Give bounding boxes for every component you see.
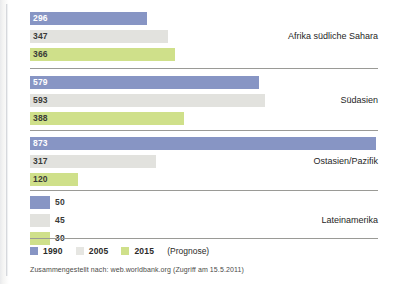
bar-2005 bbox=[30, 214, 50, 227]
bar-row: 366 bbox=[30, 48, 378, 61]
bar-row: 296 bbox=[30, 12, 378, 25]
bar-value-label: 347 bbox=[33, 30, 48, 43]
bar-value-label: 873 bbox=[33, 137, 48, 150]
legend-swatch-2005 bbox=[76, 247, 84, 255]
group-separator bbox=[30, 68, 378, 69]
bar-value-label: 388 bbox=[33, 112, 48, 125]
bar-2005 bbox=[30, 94, 265, 107]
bar-value-label: 317 bbox=[33, 155, 48, 168]
bar-row: 50 bbox=[30, 196, 378, 209]
region-label: Südasien bbox=[340, 95, 378, 105]
legend-label-2015: 2015 bbox=[134, 246, 154, 256]
bar-value-label: 593 bbox=[33, 94, 48, 107]
bar-row: 120 bbox=[30, 173, 378, 186]
bar-row: 388 bbox=[30, 112, 378, 125]
bar-chart: 296347366Afrika südliche Sahara579593388… bbox=[0, 0, 398, 284]
bar-value-label: 120 bbox=[33, 173, 48, 186]
group-separator bbox=[30, 238, 378, 239]
bar-value-label: 296 bbox=[33, 12, 48, 25]
group-separator bbox=[30, 190, 378, 191]
bar-row: 873 bbox=[30, 137, 378, 150]
legend-label-1990: 1990 bbox=[43, 246, 63, 256]
bar-2005 bbox=[30, 155, 156, 168]
bar-2015 bbox=[30, 112, 184, 125]
legend-swatch-1990 bbox=[30, 247, 38, 255]
bar-1990 bbox=[30, 76, 259, 89]
bar-row: 593 bbox=[30, 94, 378, 107]
legend-item-2005: 2005 bbox=[76, 246, 109, 256]
bar-1990 bbox=[30, 137, 376, 150]
region-label: Afrika südliche Sahara bbox=[288, 31, 378, 41]
bar-group: 579593388 bbox=[30, 76, 378, 130]
bar-2005 bbox=[30, 30, 168, 43]
region-label: Lateinamerika bbox=[321, 215, 378, 225]
group-separator bbox=[30, 130, 378, 131]
legend-label-2005: 2005 bbox=[89, 246, 109, 256]
bar-value-label: 50 bbox=[55, 196, 65, 209]
legend-note-text: (Prognose) bbox=[167, 246, 209, 256]
bar-value-label: 45 bbox=[55, 214, 65, 227]
legend-item-2015: 2015 bbox=[121, 246, 154, 256]
legend-item-1990: 1990 bbox=[30, 246, 63, 256]
chart-legend: 1990 2005 2015 (Prognose) bbox=[30, 246, 222, 256]
region-label: Ostasien/Pazifik bbox=[313, 156, 378, 166]
bar-value-label: 366 bbox=[33, 48, 48, 61]
legend-note: (Prognose) bbox=[167, 246, 209, 256]
legend-swatch-2015 bbox=[121, 247, 129, 255]
bar-2015 bbox=[30, 48, 175, 61]
chart-source: Zusammengestellt nach: web.worldbank.org… bbox=[30, 266, 244, 273]
bar-value-label: 579 bbox=[33, 76, 48, 89]
bar-1990 bbox=[30, 196, 50, 209]
bar-row: 579 bbox=[30, 76, 378, 89]
